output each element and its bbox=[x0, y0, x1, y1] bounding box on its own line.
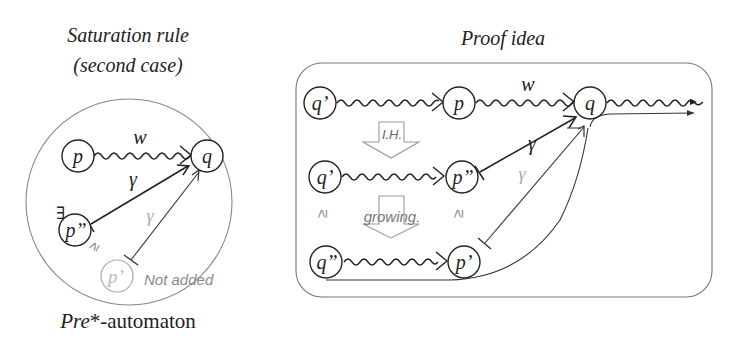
node-row3-p-prime: p’ bbox=[448, 246, 480, 278]
right-title: Proof idea bbox=[460, 27, 545, 50]
node-row1-q: q bbox=[574, 87, 606, 119]
geq-symbol: ≥ bbox=[85, 239, 103, 254]
caption-pre: Pre bbox=[59, 309, 90, 333]
wavy-edge-p-q bbox=[94, 153, 194, 159]
left-caption: Pre*-automaton bbox=[59, 309, 196, 333]
gamma-edge-pd-q bbox=[131, 172, 199, 260]
label-gamma-black: γ bbox=[129, 168, 138, 191]
wavy-edge-qd-p bbox=[337, 100, 439, 106]
node-label: q” bbox=[316, 251, 337, 274]
node-label: q’ bbox=[312, 92, 329, 115]
not-added-label: Not added bbox=[144, 271, 214, 288]
wavy-edge-qdd-pd bbox=[344, 259, 438, 265]
left-title-line2: (second case) bbox=[73, 54, 183, 77]
geq-right-symbol: ≥ bbox=[449, 210, 466, 218]
geq-left-symbol: ≥ bbox=[313, 210, 330, 218]
node-label: q bbox=[202, 145, 212, 168]
label-gamma-gray: γ bbox=[146, 206, 154, 226]
left-panel: Saturation rule (second case) w γ γ p q … bbox=[26, 24, 232, 333]
ih-label: I.H. bbox=[382, 127, 402, 142]
node-label: q’ bbox=[317, 166, 334, 189]
node-label: p bbox=[452, 92, 464, 115]
growing-label: growing. bbox=[364, 208, 421, 225]
arrowhead bbox=[177, 165, 189, 175]
node-label: p” bbox=[63, 219, 86, 242]
node-row2-p-double-prime: p” bbox=[446, 161, 478, 193]
ih-hollow-arrow: I.H. bbox=[363, 122, 419, 158]
wavy-edge-qd-pdd bbox=[342, 174, 436, 180]
left-title-line1: Saturation rule bbox=[67, 24, 189, 46]
diagram-canvas: Saturation rule (second case) w γ γ p q … bbox=[0, 0, 747, 339]
node-row1-p: p bbox=[443, 87, 475, 119]
label-gamma-black: γ bbox=[528, 132, 537, 155]
proof-frame bbox=[296, 63, 712, 297]
node-q: q bbox=[191, 140, 223, 172]
label-w: w bbox=[521, 73, 535, 95]
arrowhead bbox=[436, 252, 447, 270]
node-label: p’ bbox=[106, 266, 124, 287]
path-continuation bbox=[590, 113, 694, 127]
node-label: q bbox=[585, 92, 595, 115]
node-label: p’ bbox=[454, 251, 473, 274]
label-gamma-gray: γ bbox=[518, 164, 526, 184]
right-panel: Proof idea w I.H. γ γ bbox=[296, 27, 712, 297]
node-row3-q-double-prime: q” bbox=[310, 246, 342, 278]
wavy-edge-p-q bbox=[476, 100, 578, 106]
node-label: p bbox=[71, 145, 83, 168]
label-w: w bbox=[133, 126, 147, 148]
node-row1-q-prime: q’ bbox=[304, 87, 336, 119]
arrowhead bbox=[433, 167, 444, 185]
wavy-edge-q-out bbox=[607, 100, 703, 106]
growing-hollow-arrow: growing. bbox=[363, 196, 420, 238]
exists-symbol: ∃ bbox=[56, 204, 65, 223]
gamma-edge-pdd-q bbox=[91, 166, 188, 224]
edge-tail-bar bbox=[478, 238, 491, 249]
node-p: p bbox=[62, 140, 94, 172]
node-row2-q-prime: q’ bbox=[309, 161, 341, 193]
node-p-prime: p’ bbox=[101, 260, 133, 292]
caption-suffix: *-automaton bbox=[90, 309, 197, 333]
node-label: p” bbox=[450, 166, 473, 189]
